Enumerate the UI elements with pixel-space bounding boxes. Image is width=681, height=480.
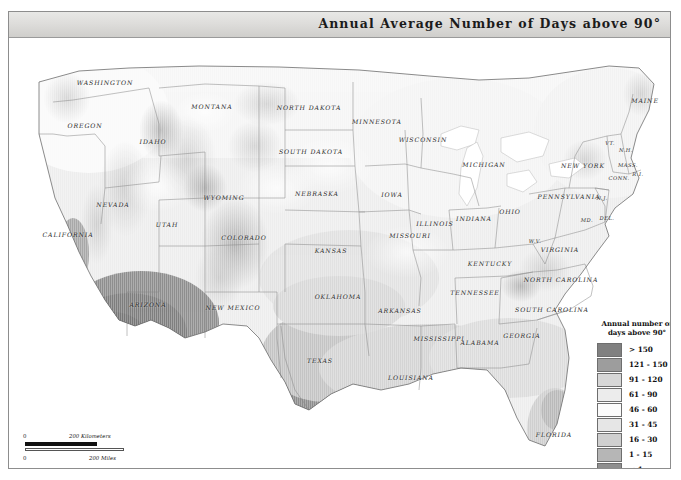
legend-swatch: [597, 448, 622, 462]
legend-label: 91 - 120: [629, 375, 663, 384]
legend-title-line-2: days above 90°: [598, 328, 670, 337]
legend-title: Annual number of days above 90°: [598, 319, 670, 337]
legend-row: 61 - 90: [597, 387, 670, 402]
scale-bar: 0 200 Kilometers 0 200 Miles: [23, 433, 138, 465]
legend-label: 16 - 30: [629, 435, 657, 444]
legend-row: 121 - 150: [597, 357, 670, 372]
scale-mi-label: 200 Miles: [89, 455, 116, 461]
title-band: Annual Average Number of Days above 90°: [9, 12, 670, 38]
scale-km-zero: 0: [23, 433, 26, 439]
legend-swatch: [597, 433, 622, 447]
usa-choropleth-map: [9, 38, 670, 468]
map-frame: Annual Average Number of Days above 90°: [8, 11, 671, 469]
page-title: Annual Average Number of Days above 90°: [318, 16, 661, 31]
legend-row: 46 - 60: [597, 402, 670, 417]
map-legend: Annual number of days above 90° > 150121…: [597, 319, 670, 468]
legend-swatch: [597, 418, 622, 432]
map-land-layer: [9, 38, 670, 468]
legend-swatch: [597, 388, 622, 402]
legend-row: 91 - 120: [597, 372, 670, 387]
legend-row: < 1: [597, 462, 670, 468]
scale-bar-mi: [25, 448, 124, 451]
legend-row: 1 - 15: [597, 447, 670, 462]
legend-title-line-1: Annual number of: [598, 319, 670, 328]
legend-swatch: [597, 463, 622, 469]
legend-swatch: [597, 403, 622, 417]
map-canvas[interactable]: WASHINGTONOREGONIDAHOMONTANAWYOMINGNEVAD…: [9, 38, 670, 468]
scale-mi-zero: 0: [23, 455, 26, 461]
legend-swatch: [597, 343, 622, 357]
legend-row: 31 - 45: [597, 417, 670, 432]
legend-label: 31 - 45: [629, 420, 657, 429]
legend-row: > 150: [597, 342, 670, 357]
scale-bar-km: [25, 442, 97, 446]
legend-label: 121 - 150: [629, 360, 668, 369]
legend-label: < 1: [629, 465, 643, 468]
legend-label: 61 - 90: [629, 390, 657, 399]
map-page: Annual Average Number of Days above 90°: [0, 0, 681, 480]
legend-label: 46 - 60: [629, 405, 657, 414]
legend-rows: > 150121 - 15091 - 12061 - 9046 - 6031 -…: [597, 342, 670, 468]
legend-row: 16 - 30: [597, 432, 670, 447]
legend-swatch: [597, 358, 622, 372]
scale-km-label: 200 Kilometers: [69, 433, 111, 439]
legend-label: 1 - 15: [629, 450, 652, 459]
legend-swatch: [597, 373, 622, 387]
legend-label: > 150: [629, 345, 653, 354]
